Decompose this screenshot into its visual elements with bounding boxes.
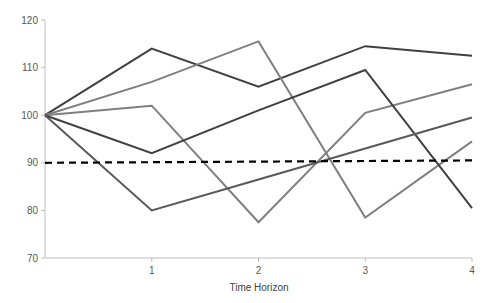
x-tick-label: 1	[149, 265, 155, 276]
threshold-line	[45, 160, 472, 162]
x-tick-label: 4	[469, 265, 475, 276]
axes: 7080901001101201234	[21, 15, 475, 277]
y-tick-label: 120	[21, 15, 38, 26]
series-line-3	[45, 84, 472, 222]
threshold-dashed-line	[45, 160, 472, 162]
x-tick-label: 2	[256, 265, 262, 276]
line-chart: 7080901001101201234 Time Horizon	[0, 0, 498, 303]
y-tick-label: 110	[22, 62, 38, 73]
series-lines	[45, 41, 472, 222]
x-axis-title: Time Horizon	[229, 282, 288, 293]
series-line-1	[45, 46, 472, 115]
y-tick-label: 100	[21, 110, 38, 121]
y-tick-label: 90	[27, 157, 39, 168]
x-tick-label: 3	[362, 265, 368, 276]
y-tick-label: 70	[27, 253, 39, 264]
series-line-2	[45, 41, 472, 217]
y-tick-label: 80	[27, 205, 39, 216]
